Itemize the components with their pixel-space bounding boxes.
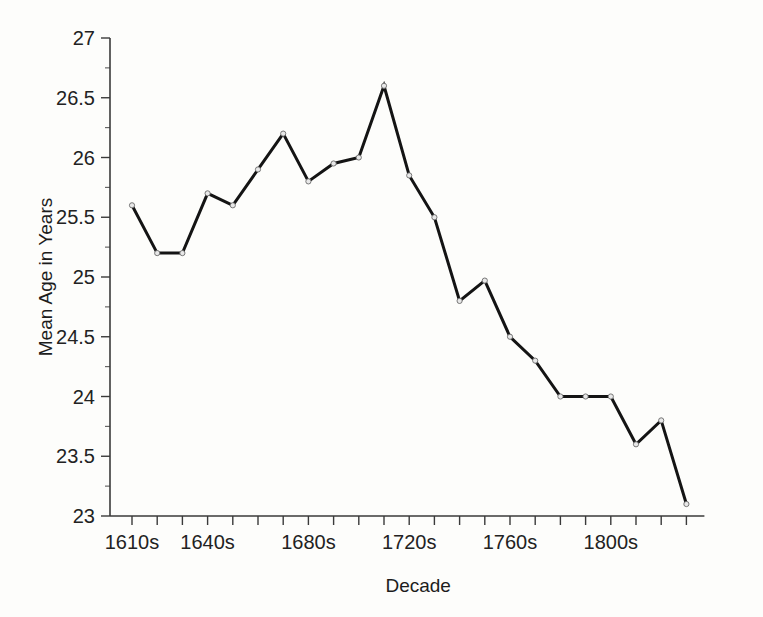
x-tick-label: 1640s	[180, 531, 235, 553]
y-axis-title: Mean Age in Years	[35, 198, 56, 356]
y-tick-label: 23.5	[56, 445, 95, 467]
data-point-marker	[306, 179, 311, 184]
data-point-marker	[381, 83, 386, 88]
data-point-marker	[255, 167, 260, 172]
x-axis-ticks	[132, 516, 686, 525]
x-tick-label: 1680s	[281, 531, 336, 553]
data-point-marker	[205, 191, 210, 196]
data-point-marker	[331, 161, 336, 166]
data-point-marker	[432, 215, 437, 220]
data-point-marker	[482, 278, 487, 283]
x-axis-title: Decade	[385, 575, 451, 596]
data-point-marker	[129, 203, 134, 208]
data-point-marker	[407, 173, 412, 178]
y-axis-tick-labels: 2323.52424.52525.52626.527	[56, 27, 95, 527]
y-tick-label: 25.5	[56, 206, 95, 228]
data-point-marker	[608, 394, 613, 399]
data-point-marker	[533, 358, 538, 363]
data-point-markers	[129, 83, 689, 506]
chart-container: 2323.52424.52525.52626.527 1610s1640s168…	[0, 0, 763, 617]
y-tick-label: 26	[73, 147, 95, 169]
y-tick-label: 24	[73, 386, 95, 408]
data-point-marker	[659, 418, 664, 423]
data-point-marker	[180, 251, 185, 256]
y-tick-label: 23	[73, 505, 95, 527]
x-tick-label: 1800s	[584, 531, 639, 553]
data-point-marker	[281, 131, 286, 136]
x-tick-label: 1720s	[382, 531, 437, 553]
y-tick-label: 26.5	[56, 87, 95, 109]
line-chart: 2323.52424.52525.52626.527 1610s1640s168…	[0, 0, 763, 617]
x-axis-tick-labels: 1610s1640s1680s1720s1760s1800s	[105, 531, 638, 553]
y-axis-major-ticks	[101, 38, 110, 516]
x-tick-label: 1760s	[483, 531, 538, 553]
data-point-marker	[583, 394, 588, 399]
data-point-marker	[457, 298, 462, 303]
x-tick-label: 1610s	[105, 531, 160, 553]
y-tick-label: 24.5	[56, 326, 95, 348]
data-line-series	[132, 86, 686, 504]
data-point-marker	[558, 394, 563, 399]
data-point-marker	[507, 334, 512, 339]
data-point-marker	[356, 155, 361, 160]
data-point-marker	[155, 251, 160, 256]
data-point-marker	[633, 442, 638, 447]
y-tick-label: 27	[73, 27, 95, 49]
data-point-marker	[230, 203, 235, 208]
y-tick-label: 25	[73, 266, 95, 288]
data-point-marker	[684, 501, 689, 506]
